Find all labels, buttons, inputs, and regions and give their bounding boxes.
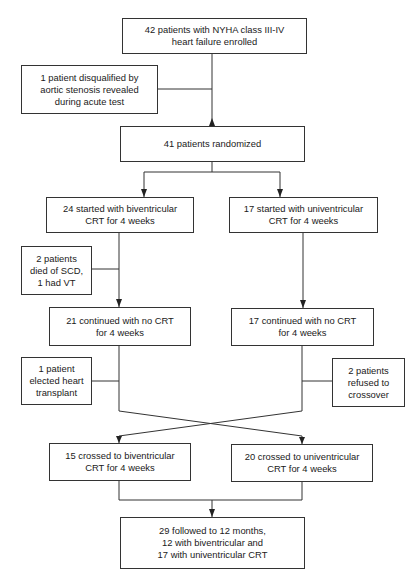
node-enrolled-text: 42 patients with NYHA class III-IV heart…	[145, 24, 285, 48]
node-crossed-uni-text: 20 crossed to univentricular CRT for 4 w…	[245, 451, 360, 475]
node-randomized: 41 patients randomized	[120, 126, 305, 162]
node-uni-start-text: 17 started with univentricular CRT for 4…	[244, 203, 363, 227]
node-refused-text: 2 patients refused to crossover	[348, 365, 390, 401]
node-uni-no-crt-text: 17 continued with no CRT for 4 weeks	[249, 315, 357, 339]
node-biv-start: 24 started with biventricular CRT for 4 …	[46, 197, 194, 233]
node-crossed-uni: 20 crossed to univentricular CRT for 4 w…	[231, 444, 373, 482]
node-disqualified: 1 patient disqualified by aortic stenosi…	[21, 65, 158, 114]
node-transplant: 1 patient elected heart transplant	[21, 357, 92, 405]
node-transplant-text: 1 patient elected heart transplant	[29, 363, 83, 399]
node-enrolled: 42 patients with NYHA class III-IV heart…	[122, 18, 307, 54]
node-uni-no-crt: 17 continued with no CRT for 4 weeks	[231, 308, 374, 346]
node-crossed-biv: 15 crossed to biventricular CRT for 4 we…	[49, 443, 191, 481]
node-died-text: 2 patients died of SCD, 1 had VT	[30, 253, 83, 289]
node-biv-no-crt: 21 continued with no CRT for 4 weeks	[49, 307, 191, 346]
node-biv-start-text: 24 started with biventricular CRT for 4 …	[63, 203, 177, 227]
node-biv-no-crt-text: 21 continued with no CRT for 4 weeks	[66, 315, 174, 339]
node-uni-start: 17 started with univentricular CRT for 4…	[229, 197, 378, 233]
node-followed: 29 followed to 12 months, 12 with bivent…	[120, 517, 305, 569]
node-disqualified-text: 1 patient disqualified by aortic stenosi…	[40, 72, 139, 108]
node-died: 2 patients died of SCD, 1 had VT	[21, 246, 92, 295]
node-crossed-biv-text: 15 crossed to biventricular CRT for 4 we…	[65, 450, 174, 474]
node-refused: 2 patients refused to crossover	[332, 358, 405, 407]
node-randomized-text: 41 patients randomized	[164, 138, 261, 150]
node-followed-text: 29 followed to 12 months, 12 with bivent…	[158, 525, 268, 561]
